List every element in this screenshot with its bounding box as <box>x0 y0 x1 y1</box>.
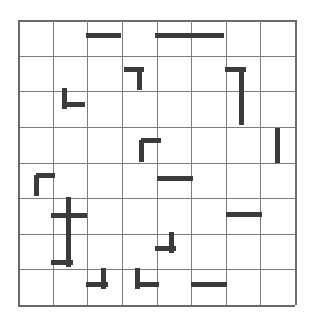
seg-r2-c7-corner-v[interactable] <box>239 69 244 125</box>
seg-r5-c5-horizontal[interactable] <box>157 176 193 181</box>
seg-r4-c4-corner-v[interactable] <box>139 140 144 162</box>
seg-r5-c1-corner-h[interactable] <box>36 173 55 178</box>
grid-line-vertical-8 <box>295 20 297 305</box>
grid-line-vertical-6 <box>226 20 227 305</box>
grid-line-vertical-3 <box>122 20 123 305</box>
seg-r3-c2-corner-h[interactable] <box>64 102 85 107</box>
grid-line-horizontal-8 <box>18 305 295 307</box>
seg-r4-c4-corner-h[interactable] <box>141 138 161 143</box>
seg-r2-c4-corner-v[interactable] <box>137 69 142 90</box>
seg-r8-c4-corner-h[interactable] <box>137 282 159 287</box>
grid-line-vertical-4 <box>157 20 158 305</box>
grid-line-vertical-5 <box>191 20 192 305</box>
seg-r5-c1-corner-v[interactable] <box>34 175 39 196</box>
grid-line-vertical-7 <box>260 20 261 305</box>
seg-r6-c2-cross-v[interactable] <box>66 197 71 267</box>
seg-r7-c5-corner-h[interactable] <box>155 246 176 251</box>
seg-r6-c2-cross-h[interactable] <box>51 213 87 218</box>
seg-r8-c3-corner-h[interactable] <box>86 282 108 287</box>
seg-r7-c2-foot-h[interactable] <box>51 260 73 265</box>
puzzle-root <box>0 0 312 325</box>
grid-line-vertical-0 <box>18 20 20 305</box>
seg-r4-c8-vertical[interactable] <box>275 128 280 163</box>
grid-board[interactable] <box>18 20 295 305</box>
seg-r6-c7-horizontal[interactable] <box>226 212 262 217</box>
seg-r1-c3-horizontal[interactable] <box>86 33 121 38</box>
seg-r8-c6-horizontal[interactable] <box>191 282 227 287</box>
seg-r1-c5-horizontal[interactable] <box>155 33 224 38</box>
grid-line-vertical-2 <box>87 20 88 305</box>
